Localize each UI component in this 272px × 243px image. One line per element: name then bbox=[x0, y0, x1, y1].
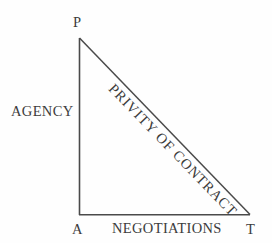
side-label-negotiations: NEGOTIATIONS bbox=[112, 221, 222, 236]
side-privity-line bbox=[80, 38, 251, 215]
triangle-shape bbox=[0, 0, 272, 243]
vertex-label-t: T bbox=[246, 222, 255, 237]
vertex-label-a: A bbox=[72, 222, 82, 237]
vertex-label-p: P bbox=[73, 15, 81, 30]
side-label-agency: AGENCY bbox=[11, 104, 74, 119]
diagram-canvas: AGENCY NEGOTIATIONS PRIVITY OF CONTRACT … bbox=[0, 0, 272, 243]
